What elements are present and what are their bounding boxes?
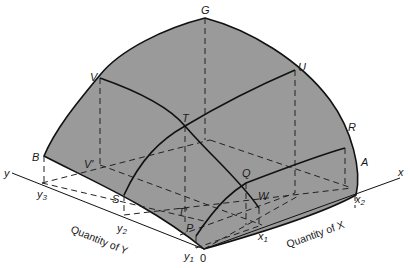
label-P: P <box>186 222 194 234</box>
label-B: B <box>32 151 39 163</box>
tick-x1: x1 <box>257 230 268 244</box>
label-V-prime: V' <box>84 158 94 170</box>
production-surface <box>44 18 358 249</box>
tick-y3: y3 <box>36 188 48 202</box>
x-axis-label: x <box>397 166 404 178</box>
tick-x2: x2 <box>354 193 366 207</box>
label-Q: Q <box>242 167 251 179</box>
tick-y2: y2 <box>116 222 128 236</box>
label-A: A <box>360 156 368 168</box>
y-axis-label: y <box>3 167 11 179</box>
origin-label: 0 <box>200 252 206 264</box>
label-R: R <box>348 121 356 133</box>
label-T-prime: T' <box>178 206 188 218</box>
production-surface-diagram: G V U T R B V' A Q S W T' P y3 y2 y1 x1 … <box>0 0 410 268</box>
tick-y1: y1 <box>183 250 194 264</box>
label-G: G <box>201 4 210 16</box>
label-U: U <box>298 61 306 73</box>
x-axis-title: Quantity of X <box>285 218 346 250</box>
label-W: W <box>258 190 270 202</box>
label-S: S <box>112 193 120 205</box>
